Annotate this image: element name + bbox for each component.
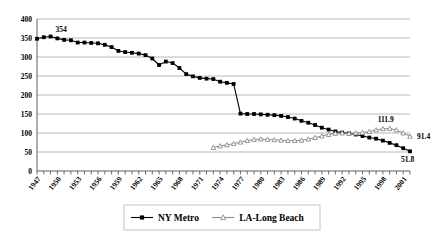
y-axis-tick-label: 200 [21,91,33,100]
y-axis-tick-label: 100 [21,129,33,138]
data-point-marker [191,74,195,78]
data-point-marker [83,41,87,45]
data-point-marker [374,128,379,132]
data-point-marker [381,127,386,131]
data-point-marker [266,113,270,117]
data-point-marker [130,51,134,55]
data-point-marker [272,113,276,117]
x-axis-tick-label: 1989 [311,174,327,192]
data-point-marker [103,43,107,47]
x-axis-tick-label: 1983 [270,174,286,192]
data-point-marker [286,115,290,119]
data-point-marker [55,36,59,40]
x-axis-tick-label: 1959 [108,174,124,192]
chart-canvas: 050100150200250300350400 194719501953195… [0,0,440,252]
data-point-marker [218,80,222,84]
data-point-marker [252,112,256,116]
data-point-marker [320,134,325,138]
data-point-marker [381,139,385,143]
data-point-marker [408,134,413,138]
data-point-marker [218,144,223,148]
data-point-marker [401,146,405,150]
data-point-marker [367,136,371,140]
data-point-marker [211,77,215,81]
gridlines [37,19,410,152]
chart-legend: NY MetroLA-Long Beach [124,205,320,230]
data-point-marker [211,145,216,149]
data-point-marker [306,121,310,125]
data-point-marker [157,63,161,67]
data-point-marker [313,135,318,139]
x-axis-tick-label: 1965 [148,174,164,192]
data-point-marker [245,112,249,116]
data-point-marker [388,141,392,145]
data-point-marker [184,72,188,76]
data-point-marker [286,138,291,142]
data-point-marker [313,123,317,127]
data-point-marker [279,138,284,142]
data-point-marker [293,117,297,121]
data-point-marker [232,82,236,86]
data-point-marker [367,129,372,133]
data-point-marker [306,137,311,141]
data-point-marker [259,137,264,141]
data-point-marker [320,126,324,130]
data-point-marker [374,137,378,141]
data-point-marker [265,137,270,141]
y-axis-tick-label: 150 [21,110,33,119]
x-axis-tick-label: 1980 [250,174,266,192]
x-axis-tick-label: 1953 [67,174,83,192]
data-point-marker [205,77,209,81]
data-point-marker [178,66,182,70]
data-point-marker [164,60,168,64]
data-point-marker [394,128,399,132]
x-axis-tick-label: 1950 [47,174,63,192]
data-point-marker [272,138,277,142]
y-axis-tick-label: 400 [21,15,33,24]
x-axis-tick-label: 1971 [189,174,205,192]
legend-label: LA-Long Beach [239,213,304,223]
data-point-marker [62,38,66,42]
data-label: 51.8 [401,155,414,164]
x-axis-tick-label: 1956 [87,174,103,192]
x-axis-tick-label: 1974 [209,174,225,192]
data-point-marker [353,131,358,135]
data-point-marker [144,53,148,57]
y-axis-tick-label: 0 [28,167,32,176]
data-point-marker [239,112,243,116]
y-axis-tick-label: 300 [21,53,33,62]
x-axis-tick-label: 1992 [331,174,347,192]
x-axis-tick-label: 1968 [169,174,185,192]
x-axis-tick-labels: 1947195019531956195919621965196819711974… [26,174,409,192]
data-point-marker [171,61,175,65]
data-point-marker [49,35,53,39]
data-point-marker [76,41,80,45]
data-point-marker [245,138,250,142]
data-point-marker [238,140,243,144]
data-point-marker [225,142,230,146]
x-axis-ticks [37,171,410,175]
data-point-marker [300,119,304,123]
data-point-marker [360,130,365,134]
data-point-marker [69,38,73,42]
data-point-marker [116,49,120,53]
data-point-marker [327,128,331,132]
data-point-marker [252,137,257,141]
x-axis-tick-label: 1995 [352,174,368,192]
data-label: 111.9 [378,115,394,124]
data-point-marker [150,57,154,61]
data-point-marker [395,143,399,147]
data-point-marker [137,52,141,56]
data-point-marker [279,114,283,118]
x-axis-tick-label: 2001 [392,174,408,192]
legend-marker-square-icon [140,215,144,219]
data-point-marker [110,45,114,49]
data-point-marker [89,41,93,45]
data-point-marker [299,138,304,142]
data-point-marker [35,37,39,41]
data-label: 354 [56,25,68,34]
data-point-marker [96,41,100,45]
x-axis-tick-label: 1962 [128,174,144,192]
legend-label: NY Metro [158,213,199,223]
data-point-marker [292,138,297,142]
